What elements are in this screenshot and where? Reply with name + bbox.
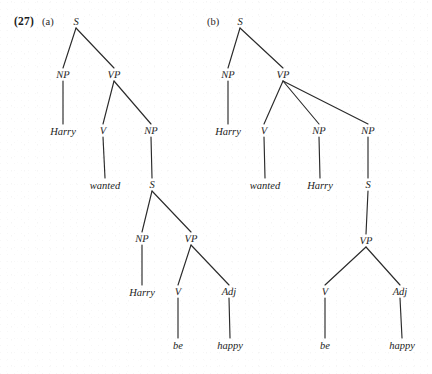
- node-adj-b-adj: Adj: [393, 287, 408, 298]
- node-vp-b-vp1: VP: [277, 70, 290, 81]
- terminal-wanted-b-wanted: wanted: [250, 180, 280, 191]
- node-s-a-s2: S: [149, 180, 154, 191]
- tree-edge: [319, 137, 320, 178]
- tree-edge: [114, 81, 151, 124]
- example-number: (27): [14, 15, 34, 27]
- tree-edge: [151, 137, 152, 178]
- terminal-harry-b-harry2: Harry: [307, 180, 333, 191]
- tree-edge: [142, 191, 152, 232]
- tree-edge: [240, 28, 283, 68]
- subfigure-label-b: (b): [207, 16, 219, 27]
- terminal-happy-a-happy: happy: [217, 340, 243, 351]
- tree-edge: [103, 81, 114, 124]
- node-np-a-np1: NP: [56, 70, 69, 81]
- tree-edge: [400, 298, 402, 338]
- tree-edge: [283, 81, 368, 124]
- tree-edge: [152, 191, 191, 232]
- tree-edge: [76, 28, 114, 68]
- tree-edge: [103, 137, 105, 178]
- tree-edge: [191, 245, 229, 285]
- tree-edge: [229, 298, 230, 338]
- node-np-b-np3: NP: [361, 126, 374, 137]
- tree-edge: [228, 28, 240, 68]
- node-vp-b-vp2: VP: [360, 236, 373, 247]
- tree-edge: [63, 28, 76, 68]
- node-v-b-v2: V: [322, 287, 328, 298]
- terminal-harry-a-harry1: Harry: [50, 126, 76, 137]
- tree-edge: [366, 191, 368, 234]
- tree-edge: [366, 247, 400, 285]
- node-vp-a-vp2: VP: [185, 234, 198, 245]
- subfigure-label-a: (a): [42, 16, 54, 27]
- node-np-b-np1: NP: [221, 70, 234, 81]
- tree-edge: [178, 245, 191, 285]
- node-s-b-s2: S: [365, 180, 370, 191]
- node-np-a-np3: NP: [135, 234, 148, 245]
- terminal-be-b-be: be: [320, 340, 330, 351]
- node-np-a-np2: NP: [144, 126, 157, 137]
- node-v-b-v1: V: [261, 126, 267, 137]
- tree-edge: [264, 81, 283, 124]
- terminal-harry-b-harry1: Harry: [215, 126, 241, 137]
- terminal-be-a-be: be: [173, 340, 183, 351]
- terminal-happy-b-happy: happy: [389, 340, 415, 351]
- node-adj-a-adj: Adj: [222, 287, 237, 298]
- terminal-harry-a-harry2: Harry: [129, 287, 155, 298]
- tree-edge: [283, 81, 319, 124]
- tree-edge: [325, 247, 366, 285]
- node-s-b-s-top: S: [237, 17, 242, 28]
- tree-edge: [264, 137, 265, 178]
- node-v-a-v2: V: [175, 287, 181, 298]
- node-s-a-s-top: S: [73, 17, 78, 28]
- figure-page: (27)(a)SNPVPHarryVNPwantedSNPVPHarryVAdj…: [0, 0, 432, 374]
- terminal-wanted-a-wanted: wanted: [90, 180, 120, 191]
- node-v-a-v1: V: [100, 126, 106, 137]
- node-vp-a-vp1: VP: [108, 70, 121, 81]
- node-np-b-np2: NP: [312, 126, 325, 137]
